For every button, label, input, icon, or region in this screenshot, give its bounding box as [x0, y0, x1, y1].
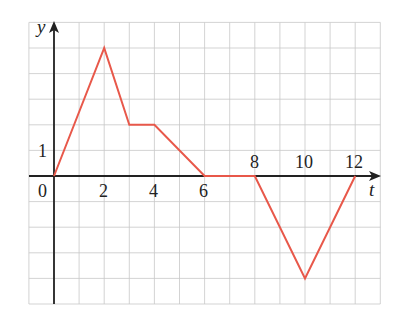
- x-tick-2: 2: [99, 181, 108, 201]
- x-tick-4: 4: [149, 181, 158, 201]
- y-tick-1: 1: [38, 141, 47, 161]
- x-tick-6: 6: [199, 181, 208, 201]
- x-tick-10: 10: [295, 152, 313, 172]
- grid: [29, 22, 380, 304]
- x-axis-label: t: [369, 179, 375, 200]
- origin-label: 0: [38, 181, 47, 201]
- x-tick-8: 8: [250, 152, 259, 172]
- y-axis-label: y: [35, 16, 46, 37]
- x-tick-12: 12: [345, 152, 363, 172]
- line-chart: y t 1 0 2 4 6 8 10 12: [0, 0, 403, 319]
